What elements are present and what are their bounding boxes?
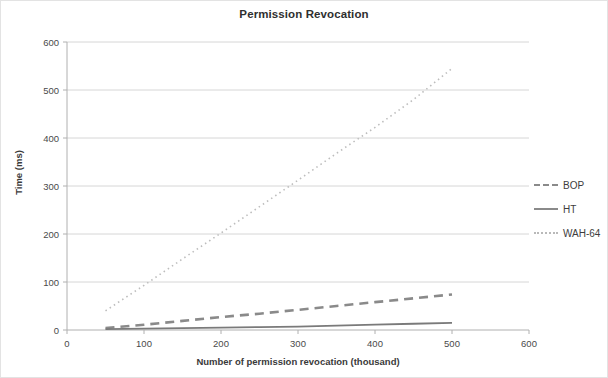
y-tick-label: 500 [43, 85, 59, 96]
x-tick-label: 300 [290, 338, 306, 349]
series-line-wah-64 [106, 68, 453, 310]
x-tick-label: 0 [64, 338, 69, 349]
y-tick-label: 600 [43, 37, 59, 48]
x-tick-label: 400 [367, 338, 383, 349]
legend-label: HT [563, 204, 576, 215]
legend-line-dashed-icon [534, 180, 558, 190]
chart-container: Permission Revocation 010020030040050060… [0, 0, 608, 378]
y-tick-label: 400 [43, 133, 59, 144]
legend-line-solid-icon [534, 204, 558, 214]
plot-area: 0100200300400500600 0100200300400500600 [1, 1, 608, 378]
x-tick-label: 100 [136, 338, 152, 349]
y-tick-group: 0100200300400500600 [43, 37, 67, 336]
legend-item-wah64[interactable]: WAH-64 [534, 221, 608, 245]
legend-label: BOP [563, 180, 584, 191]
x-tick-group: 0100200300400500600 [64, 330, 537, 349]
x-tick-label: 200 [213, 338, 229, 349]
chart-legend: BOP HT WAH-64 [534, 173, 608, 245]
data-series-group [106, 68, 453, 329]
y-tick-label: 200 [43, 229, 59, 240]
series-line-bop [106, 294, 453, 328]
legend-label: WAH-64 [563, 228, 600, 239]
x-tick-label: 600 [521, 338, 537, 349]
x-tick-label: 500 [444, 338, 460, 349]
gridlines-group [67, 42, 529, 282]
x-axis-title: Number of permission revocation (thousan… [67, 356, 529, 367]
y-tick-label: 0 [54, 325, 59, 336]
legend-item-bop[interactable]: BOP [534, 173, 608, 197]
y-axis-title: Time (ms) [13, 138, 24, 208]
legend-item-ht[interactable]: HT [534, 197, 608, 221]
legend-line-dotted-icon [534, 228, 558, 238]
y-tick-label: 300 [43, 181, 59, 192]
y-tick-label: 100 [43, 277, 59, 288]
